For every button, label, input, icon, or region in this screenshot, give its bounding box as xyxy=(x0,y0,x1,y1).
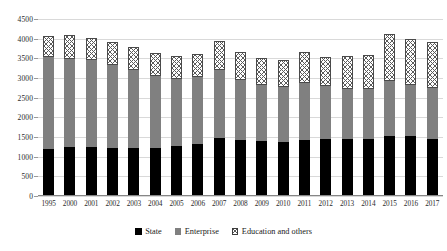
bar-segment-enterprise[interactable] xyxy=(278,87,289,141)
bar-segment-enterprise[interactable] xyxy=(107,65,118,148)
bar-segment-state[interactable] xyxy=(256,141,267,196)
bar-column[interactable] xyxy=(251,19,272,196)
bar-segment-education-and-others[interactable] xyxy=(235,52,246,80)
x-axis-label: 2005 xyxy=(166,199,187,208)
bar-column[interactable] xyxy=(123,19,144,196)
bar-stack xyxy=(128,19,139,196)
education-and-others-swatch xyxy=(232,228,239,235)
bar-segment-state[interactable] xyxy=(235,140,246,196)
bar-segment-state[interactable] xyxy=(214,138,225,196)
bar-segment-education-and-others[interactable] xyxy=(214,41,225,69)
bar-stack xyxy=(86,19,97,196)
bar-column[interactable] xyxy=(81,19,102,196)
x-axis-label: 2000 xyxy=(59,199,80,208)
bar-column[interactable] xyxy=(187,19,208,196)
bar-segment-state[interactable] xyxy=(150,148,161,196)
legend-item[interactable]: State xyxy=(135,227,162,236)
bar-stack xyxy=(192,19,203,196)
y-axis-tick-label: 2500 xyxy=(0,93,38,102)
bar-segment-education-and-others[interactable] xyxy=(107,42,118,65)
x-axis-labels: 1995200020012002200320042005200620072008… xyxy=(38,199,443,208)
bar-segment-state[interactable] xyxy=(342,139,353,196)
bar-segment-education-and-others[interactable] xyxy=(299,52,310,83)
bar-column[interactable] xyxy=(336,19,357,196)
legend-item[interactable]: Enterprise xyxy=(175,227,219,236)
bar-column[interactable] xyxy=(422,19,443,196)
bar-column[interactable] xyxy=(272,19,293,196)
bar-segment-state[interactable] xyxy=(405,136,416,196)
legend-label: Enterprise xyxy=(185,227,219,236)
chart-legend: StateEnterpriseEducation and others xyxy=(0,227,447,236)
bar-column[interactable] xyxy=(59,19,80,196)
bar-segment-education-and-others[interactable] xyxy=(256,58,267,85)
x-axis-label: 2013 xyxy=(336,199,357,208)
bar-segment-state[interactable] xyxy=(192,144,203,196)
bar-segment-education-and-others[interactable] xyxy=(150,53,161,76)
bar-segment-education-and-others[interactable] xyxy=(405,39,416,85)
bar-stack xyxy=(320,19,331,196)
bar-segment-enterprise[interactable] xyxy=(64,59,75,148)
bar-segment-state[interactable] xyxy=(363,139,374,196)
bar-segment-enterprise[interactable] xyxy=(43,57,54,149)
bar-segment-education-and-others[interactable] xyxy=(192,54,203,77)
bar-segment-education-and-others[interactable] xyxy=(86,38,97,60)
bar-segment-enterprise[interactable] xyxy=(150,76,161,148)
bar-segment-state[interactable] xyxy=(43,149,54,196)
bar-segment-state[interactable] xyxy=(384,136,395,196)
bar-stack xyxy=(150,19,161,196)
bar-segment-education-and-others[interactable] xyxy=(363,55,374,89)
bar-column[interactable] xyxy=(38,19,59,196)
bar-segment-education-and-others[interactable] xyxy=(171,56,182,79)
bar-segment-enterprise[interactable] xyxy=(384,81,395,136)
bar-segment-education-and-others[interactable] xyxy=(64,35,75,59)
bar-stack xyxy=(64,19,75,196)
bar-segment-enterprise[interactable] xyxy=(299,83,310,139)
bar-segment-enterprise[interactable] xyxy=(363,89,374,139)
bar-segment-state[interactable] xyxy=(427,139,438,196)
bar-segment-education-and-others[interactable] xyxy=(43,36,54,57)
bar-segment-enterprise[interactable] xyxy=(235,80,246,140)
bar-segment-education-and-others[interactable] xyxy=(320,57,331,86)
bar-column[interactable] xyxy=(358,19,379,196)
bar-column[interactable] xyxy=(379,19,400,196)
bar-column[interactable] xyxy=(145,19,166,196)
legend-item[interactable]: Education and others xyxy=(232,227,312,236)
bar-segment-education-and-others[interactable] xyxy=(342,56,353,90)
bar-segment-state[interactable] xyxy=(128,148,139,196)
bar-column[interactable] xyxy=(400,19,421,196)
bar-segment-enterprise[interactable] xyxy=(171,79,182,146)
bar-segment-enterprise[interactable] xyxy=(192,77,203,143)
bar-segment-state[interactable] xyxy=(86,147,97,196)
bar-segment-enterprise[interactable] xyxy=(320,86,331,139)
bar-segment-education-and-others[interactable] xyxy=(278,60,289,87)
bar-column[interactable] xyxy=(230,19,251,196)
x-axis-label: 2004 xyxy=(145,199,166,208)
bar-segment-enterprise[interactable] xyxy=(256,85,267,142)
bar-column[interactable] xyxy=(102,19,123,196)
bar-stack xyxy=(405,19,416,196)
bar-segment-education-and-others[interactable] xyxy=(427,42,438,88)
y-axis-tick-label: 4000 xyxy=(0,34,38,43)
bar-segment-state[interactable] xyxy=(171,146,182,196)
bar-column[interactable] xyxy=(294,19,315,196)
x-axis-label: 2009 xyxy=(251,199,272,208)
bar-column[interactable] xyxy=(209,19,230,196)
bar-segment-state[interactable] xyxy=(299,140,310,196)
bar-segment-state[interactable] xyxy=(278,142,289,196)
bar-segment-enterprise[interactable] xyxy=(128,70,139,148)
bar-segment-enterprise[interactable] xyxy=(342,89,353,138)
bar-segment-enterprise[interactable] xyxy=(405,85,416,137)
bar-segment-state[interactable] xyxy=(64,147,75,196)
bar-segment-state[interactable] xyxy=(107,148,118,196)
y-axis-tick-label: 4500 xyxy=(0,15,38,24)
bar-column[interactable] xyxy=(315,19,336,196)
x-axis-label: 2011 xyxy=(294,199,315,208)
bar-segment-education-and-others[interactable] xyxy=(384,34,395,81)
bar-segment-enterprise[interactable] xyxy=(214,70,225,138)
x-axis-label: 2003 xyxy=(123,199,144,208)
bar-segment-education-and-others[interactable] xyxy=(128,47,139,70)
bar-segment-enterprise[interactable] xyxy=(86,60,97,147)
bar-column[interactable] xyxy=(166,19,187,196)
bar-segment-state[interactable] xyxy=(320,139,331,196)
bar-segment-enterprise[interactable] xyxy=(427,88,438,139)
